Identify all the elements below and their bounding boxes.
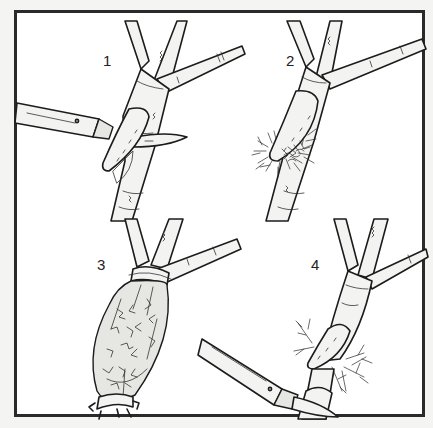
- panel-3: 3: [37, 219, 237, 419]
- panel-4: 4: [222, 219, 422, 419]
- figure-frame: 1 2: [14, 10, 425, 417]
- wrapped-moss-ball-illustration: [37, 219, 237, 419]
- moss-around-cut-illustration: [222, 21, 422, 221]
- panel-2: 2: [222, 21, 422, 221]
- stem-cut-with-knife-illustration: [37, 21, 237, 221]
- severing-rooted-stem-illustration: [222, 219, 422, 419]
- panel-1: 1: [37, 21, 237, 221]
